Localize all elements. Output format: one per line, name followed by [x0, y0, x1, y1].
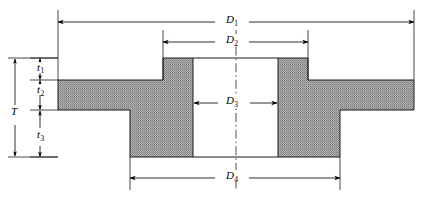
T-symbol: T	[11, 105, 17, 117]
D1-symbol: D	[226, 13, 234, 25]
dimension-label-D1: D1	[223, 14, 241, 25]
right-flange-section-fill	[278, 58, 414, 157]
dimension-label-t3: t3	[34, 129, 47, 140]
t2-subscript: 2	[40, 89, 44, 98]
t1-subscript: 1	[40, 66, 44, 75]
flange-dimension-figure: D1 D2 D3 D4 T t1 t2 t3	[0, 0, 434, 199]
D4-subscript: 4	[234, 175, 238, 184]
section-body-right	[278, 58, 414, 157]
D1-subscript: 1	[234, 19, 238, 28]
dimension-label-D3: D3	[223, 95, 241, 106]
t3-subscript: 3	[40, 134, 44, 143]
dimension-label-t2: t2	[34, 84, 47, 95]
dimension-label-T: T	[9, 106, 19, 117]
flange-section-drawing	[0, 0, 434, 199]
dimension-label-D2: D2	[223, 34, 241, 45]
dimension-label-t1: t1	[34, 62, 47, 73]
D2-symbol: D	[226, 33, 234, 45]
dimension-label-D4: D4	[223, 170, 241, 181]
D3-subscript: 3	[234, 100, 238, 109]
section-body-left	[58, 58, 193, 157]
D4-symbol: D	[226, 169, 234, 181]
D2-subscript: 2	[234, 39, 238, 48]
left-flange-section-fill	[58, 58, 193, 157]
D3-symbol: D	[226, 94, 234, 106]
